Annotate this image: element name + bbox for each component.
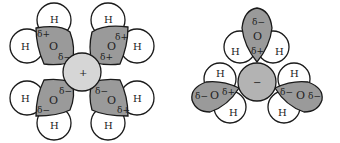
partial-charge-label: δ− xyxy=(280,87,293,97)
hydrogen-label: H xyxy=(104,120,113,131)
water-molecule-bottom-right: H H O δ− δ+ xyxy=(90,79,154,140)
hydrogen-label: H xyxy=(231,46,240,57)
hydration-diagram: H H O δ+ δ− H H O δ+ δ+ H H O δ− δ− xyxy=(0,0,340,143)
oxygen-label: O xyxy=(210,89,219,102)
hydrogen-label: H xyxy=(229,107,238,118)
partial-charge-label: δ− xyxy=(308,91,321,101)
hydrogen-label: H xyxy=(133,93,142,104)
partial-charge-label: δ+ xyxy=(117,105,130,115)
cation-hydration-figure: H H O δ+ δ− H H O δ+ δ+ H H O δ− δ− xyxy=(10,3,154,140)
water-molecule-right: H H O δ− δ− xyxy=(268,63,322,123)
oxygen-label: O xyxy=(49,40,58,53)
partial-charge-label: δ+ xyxy=(251,46,264,56)
hydrogen-label: H xyxy=(104,14,113,25)
water-molecule-bottom-left: H H O δ− δ− xyxy=(10,79,74,140)
anion-charge-label: − xyxy=(253,77,261,88)
hydrogen-label: H xyxy=(50,120,59,131)
partial-charge-label: δ− xyxy=(252,17,265,27)
cation-charge-label: + xyxy=(79,67,87,78)
partial-charge-label: δ+ xyxy=(222,87,235,97)
water-molecule-top: H H O δ− δ+ xyxy=(224,8,289,63)
hydrogen-label: H xyxy=(50,14,59,25)
partial-charge-label: δ+ xyxy=(115,32,128,42)
water-molecule-top-right: H H O δ+ δ+ xyxy=(90,3,154,65)
water-molecule-left: H H O δ− δ+ xyxy=(192,63,246,123)
hydrogen-label: H xyxy=(275,46,284,57)
hydrogen-label: H xyxy=(21,41,30,52)
partial-charge-label: δ− xyxy=(95,86,108,96)
hydrogen-label: H xyxy=(216,68,225,79)
oxygen-label: O xyxy=(253,30,262,43)
water-molecule-top-left: H H O δ+ δ− xyxy=(10,3,74,65)
hydrogen-label: H xyxy=(290,68,299,79)
oxygen-label: O xyxy=(49,94,58,107)
hydrogen-label: H xyxy=(278,107,287,118)
partial-charge-label: δ+ xyxy=(100,52,113,62)
oxygen-label: O xyxy=(296,89,305,102)
hydrogen-label: H xyxy=(133,41,142,52)
partial-charge-label: δ− xyxy=(195,91,208,101)
partial-charge-label: δ− xyxy=(37,105,50,115)
anion-hydration-figure: H H O δ− δ+ H H O δ− δ+ H H O δ− δ− xyxy=(192,8,322,123)
hydrogen-label: H xyxy=(21,93,30,104)
oxygen-label: O xyxy=(107,94,116,107)
partial-charge-label: δ+ xyxy=(37,29,50,39)
